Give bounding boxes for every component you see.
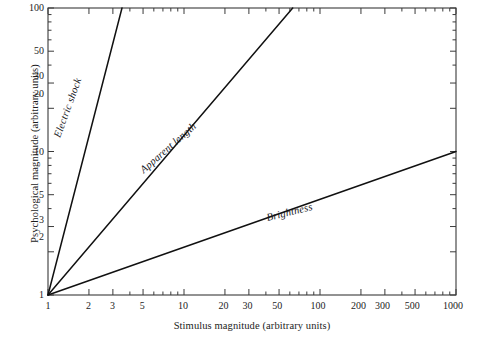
plot-svg: [0, 0, 478, 342]
data-curves: [48, 8, 456, 295]
axis-ticks: [48, 8, 456, 295]
plot-frame: [48, 8, 456, 295]
chart-canvas: Psychological magnitude (arbitrary units…: [0, 0, 478, 342]
